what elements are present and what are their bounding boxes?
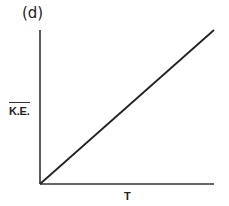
y-axis-label: K.E. bbox=[9, 102, 30, 116]
chart-plot bbox=[0, 0, 229, 206]
data-line bbox=[40, 30, 214, 184]
x-axis-label: T bbox=[124, 190, 131, 202]
